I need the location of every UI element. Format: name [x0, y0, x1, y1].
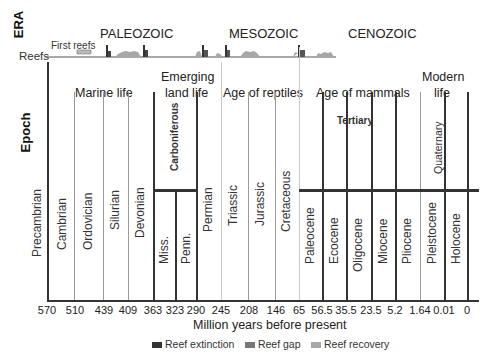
group-modern-life-line2: life: [434, 86, 450, 101]
group-age-of-reptiles: Age of reptiles: [223, 86, 303, 101]
legend-reef-recovery: Reef recovery: [311, 338, 389, 350]
tick-0-01: 0.01: [433, 304, 454, 316]
left-border-line: [47, 62, 49, 300]
period-ordovician: Ordovician: [81, 193, 95, 250]
boundary-146: [275, 92, 276, 300]
tick-409: 409: [119, 304, 137, 316]
sub-period-quaternary: Quaternary: [432, 121, 444, 174]
tick-146: 146: [267, 304, 285, 316]
tick-0: 0: [464, 304, 470, 316]
tick-5-2: 5.2: [387, 304, 402, 316]
period-pliocene: Pliocene: [400, 218, 414, 264]
boundary-0-01: [444, 92, 446, 300]
axis-title: Million years before present: [193, 318, 347, 332]
period-triassic: Triassic: [226, 185, 240, 226]
boundary-290: [196, 92, 198, 300]
period-ecocene: Ecocene: [327, 217, 341, 264]
period-paleocene: Paleocene: [303, 207, 317, 264]
legend-label: Reef gap: [258, 338, 301, 350]
boundary-323: [175, 190, 177, 300]
period-cambrian: Cambrian: [55, 198, 69, 250]
tick-1-64: 1.64: [409, 304, 430, 316]
legend-swatch-extinction-icon: [152, 342, 162, 348]
carboniferous-divider: [153, 189, 197, 192]
boundary-409: [128, 92, 129, 300]
boundary-208: [248, 92, 249, 300]
period-jurassic: Jurassic: [253, 182, 267, 226]
tick-23-5: 23.5: [360, 304, 381, 316]
period-miss: Miss.: [157, 236, 171, 264]
period-holocene: Holocene: [449, 213, 463, 264]
tick-56-5: 56.5: [311, 304, 332, 316]
tick-35-5: 35.5: [335, 304, 356, 316]
legend: Reef extinction Reef gap Reef recovery: [152, 334, 395, 352]
period-oligocene: Oligocene: [351, 218, 365, 272]
tick-208: 208: [240, 304, 258, 316]
legend-label: Reef recovery: [324, 338, 389, 350]
tertiary-quaternary-divider: [299, 189, 479, 192]
tick-439: 439: [95, 304, 113, 316]
sub-period-carboniferous: Carboniferous: [169, 103, 180, 171]
period-devonian: Devonian: [133, 187, 147, 238]
era-axis-label: ERA: [11, 10, 26, 40]
boundary-363: [153, 92, 155, 300]
boundary-5-2: [395, 92, 397, 300]
boundary-0: [467, 92, 469, 300]
legend-reef-gap: Reef gap: [245, 338, 301, 350]
boundary-439: [103, 92, 104, 300]
group-modern-life-line1: Modern: [422, 70, 464, 85]
period-cretaceous: Cretaceous: [279, 171, 293, 232]
tick-245: 245: [212, 304, 230, 316]
period-pleistocene: Pleistocene: [425, 202, 439, 264]
period-precambrian: Precambrian: [30, 189, 44, 257]
legend-swatch-recovery-icon: [311, 342, 321, 348]
group-emerging-land-life-line2: land life: [165, 86, 208, 101]
boundary-1-64: [420, 92, 421, 300]
period-silurian: Silurian: [108, 190, 122, 230]
sub-period-tertiary: Tertiary: [337, 115, 373, 126]
tick-510: 510: [66, 304, 84, 316]
tick-290: 290: [187, 304, 205, 316]
legend-swatch-gap-icon: [245, 342, 255, 348]
period-permian: Permian: [201, 187, 215, 232]
legend-label: Reef extinction: [165, 338, 234, 350]
group-emerging-land-life-line1: Emerging: [161, 70, 215, 85]
period-miocene: Miocene: [376, 219, 390, 264]
epoch-axis-label: Epoch: [18, 113, 33, 153]
era-divider-mesozoic-cenozoic: [299, 47, 300, 300]
tick-323: 323: [166, 304, 184, 316]
bottom-axis-line: [47, 300, 479, 302]
legend-reef-extinction: Reef extinction: [152, 338, 234, 350]
tick-570: 570: [38, 304, 56, 316]
boundary-56-5: [322, 92, 324, 300]
era-divider-paleozoic-mesozoic: [221, 62, 222, 300]
tick-65: 65: [293, 304, 305, 316]
reef-timeline: [0, 36, 493, 62]
period-penn: Penn.: [179, 233, 193, 264]
tick-363: 363: [144, 304, 162, 316]
boundary-510: [74, 92, 75, 300]
